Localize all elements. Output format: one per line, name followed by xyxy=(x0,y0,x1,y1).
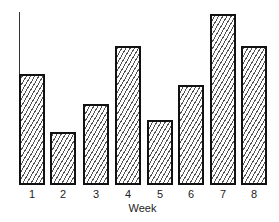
x-tick-label: 3 xyxy=(86,188,106,200)
bar-week-2 xyxy=(50,132,76,185)
bar-week-6 xyxy=(178,85,204,185)
x-axis-label: Week xyxy=(0,202,279,214)
x-tick-label: 8 xyxy=(244,188,264,200)
x-tick-label: 4 xyxy=(118,188,138,200)
x-tick-label: 2 xyxy=(53,188,73,200)
bar-week-7 xyxy=(210,14,236,185)
bar-week-3 xyxy=(83,104,109,185)
x-tick-label: 1 xyxy=(22,188,42,200)
bar-chart: 12345678 Week xyxy=(0,0,279,222)
bar-week-4 xyxy=(115,46,141,185)
x-tick-label: 7 xyxy=(213,188,233,200)
x-tick-label: 5 xyxy=(150,188,170,200)
bar-week-1 xyxy=(19,74,45,185)
bar-week-5 xyxy=(147,120,173,185)
x-tick-label: 6 xyxy=(181,188,201,200)
bar-week-8 xyxy=(241,46,267,185)
